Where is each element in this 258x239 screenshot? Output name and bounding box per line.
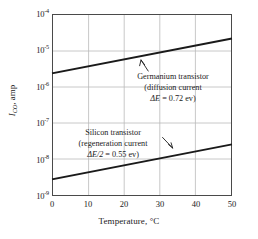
- x-tick-label-0: 0: [50, 200, 54, 209]
- x-tick-label-40: 40: [192, 200, 201, 209]
- x-tick-label-20: 20: [120, 200, 129, 209]
- x-tick-label-30: 30: [156, 200, 165, 209]
- x-tick-label-50: 50: [228, 200, 237, 209]
- x-axis-title: Temperature, °C: [0, 217, 258, 226]
- x-axis-tick-labels: 0 10 20 30 40 50: [0, 0, 258, 239]
- x-tick-label-10: 10: [84, 200, 93, 209]
- y-axis-symbol: I: [7, 113, 17, 116]
- y-axis-unit: , amp: [7, 85, 17, 105]
- chart-figure: Germanium transistor (diffusion current …: [0, 0, 258, 239]
- y-axis-title: ICO, amp: [8, 61, 17, 141]
- y-axis-subscript: CO: [11, 105, 18, 114]
